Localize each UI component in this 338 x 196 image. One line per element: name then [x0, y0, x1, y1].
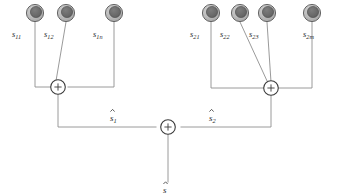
- wire-s2m: [279, 22, 312, 88]
- svg-text:s1: s1: [110, 113, 117, 124]
- wire-s23: [267, 22, 271, 82]
- label-shat-final: s: [163, 182, 168, 195]
- summer-node-group-1[interactable]: [51, 80, 66, 95]
- svg-text:s2: s2: [209, 113, 217, 124]
- source-node-s21[interactable]: [202, 4, 219, 21]
- hat-accent-shat2: [209, 109, 213, 111]
- hat-accent-shat-final: [163, 182, 167, 184]
- label-s12: s12: [44, 29, 54, 40]
- svg-text:s: s: [163, 185, 167, 195]
- label-s2m: s2m: [303, 29, 314, 40]
- source-node-s23[interactable]: [258, 4, 275, 21]
- label-s23: s23: [249, 29, 259, 40]
- source-node-s22[interactable]: [231, 4, 248, 21]
- source-node-s1n[interactable]: [105, 4, 122, 21]
- summer-node-group-2[interactable]: [264, 81, 279, 96]
- wire-group1-output: [58, 94, 156, 127]
- wire-s21: [211, 22, 264, 88]
- diagram-canvas: s11 s12 s1n s21 s22 s23 s2m s1: [0, 0, 338, 196]
- signal-summation-diagram: s11 s12 s1n s21 s22 s23 s2m s1: [0, 0, 338, 196]
- source-node-s12[interactable]: [57, 4, 74, 21]
- wire-group2-output: [181, 95, 271, 127]
- wire-s12: [56, 22, 66, 81]
- label-s1n: s1n: [93, 29, 103, 40]
- label-shat2: s2: [209, 109, 217, 124]
- wire-s1n: [68, 22, 114, 87]
- group-2-wiring: [181, 22, 312, 127]
- label-s22: s22: [220, 29, 230, 40]
- label-s11: s11: [12, 29, 21, 40]
- source-node-s11[interactable]: [26, 4, 43, 21]
- label-shat1: s1: [110, 109, 117, 124]
- hat-accent-shat1: [110, 109, 114, 111]
- wire-s22: [240, 22, 268, 83]
- label-s21: s21: [190, 29, 200, 40]
- summer-node-final[interactable]: [161, 120, 176, 135]
- source-node-s2m[interactable]: [303, 4, 320, 21]
